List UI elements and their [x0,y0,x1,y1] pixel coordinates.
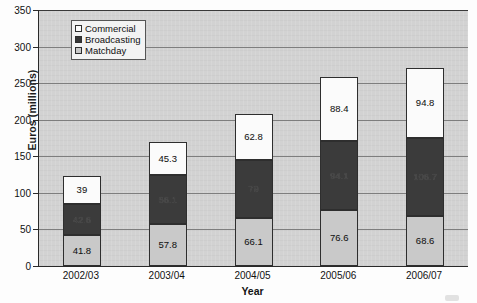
bar-group: 68.6106.794.8 [406,68,444,266]
bar-value-label: 76.6 [330,233,349,243]
bar-segment-broadcasting: 79 [235,160,273,218]
bar-segment-matchday: 57.8 [149,224,187,266]
x-axis-tick-label: 2002/03 [63,270,99,281]
bar-segment-matchday: 41.8 [63,235,101,266]
x-axis-title: Year [38,285,467,297]
legend-label: Commercial [85,23,136,34]
bar-value-label: 62.8 [244,132,263,142]
y-axis-tick-label: 200 [14,114,31,125]
bar-value-label: 68.6 [416,236,435,246]
bar-value-label: 45.3 [158,154,177,164]
x-axis-tick-label: 2003/04 [149,270,185,281]
bar-group: 76.694.188.4 [320,77,358,267]
bar-value-label: 42.6 [73,215,92,225]
bar-value-label: 39 [77,185,88,195]
y-axis-tick-label: 350 [14,5,31,16]
bar-segment-matchday: 68.6 [406,216,444,266]
stacked-bar-chart: Euros (millions) 350300250200150100500 4… [0,0,477,303]
bar-value-label: 41.8 [73,246,92,256]
y-axis-tick-label: 50 [20,224,31,235]
bar-group: 57.866.145.3 [149,142,187,266]
bar-value-label: 94.8 [416,98,435,108]
bar-value-label: 88.4 [330,104,349,114]
bar-segment-commercial: 94.8 [406,68,444,137]
y-axis-tick-label: 250 [14,78,31,89]
bar-segment-broadcasting: 66.1 [149,175,187,223]
legend-label: Broadcasting [85,34,140,45]
y-axis-tick-label: 300 [14,41,31,52]
bar-segment-commercial: 62.8 [235,114,273,160]
x-axis-tick-label: 2004/05 [234,270,270,281]
legend-swatch-icon [75,25,82,32]
bar-segment-commercial: 45.3 [149,142,187,175]
y-axis-tick-label: 100 [14,187,31,198]
bar-value-label: 66.1 [244,237,263,247]
legend-label: Matchday [85,45,126,56]
bar-segment-commercial: 88.4 [320,77,358,142]
legend-swatch-icon [75,47,82,54]
legend-item: Commercial [75,23,140,34]
bar-value-label: 106.7 [413,172,437,182]
bar-segment-matchday: 66.1 [235,218,273,266]
bar-value-label: 79 [248,184,259,194]
bar-segment-commercial: 39 [63,176,101,205]
bar-segment-matchday: 76.6 [320,210,358,266]
bar-group: 41.842.639 [63,176,101,266]
bar-segment-broadcasting: 94.1 [320,141,358,210]
y-axis-tick-label: 150 [14,151,31,162]
x-axis-tick-labels: 2002/032003/042004/052005/062006/07 [38,270,467,284]
y-axis-tick-label: 0 [25,261,31,272]
bar-segment-broadcasting: 106.7 [406,138,444,216]
bar-value-label: 57.8 [158,240,177,250]
y-axis-tick-labels: 350300250200150100500 [0,0,36,303]
plot-area: 41.842.63957.866.145.366.17962.876.694.1… [38,10,468,267]
x-axis-tick-label: 2006/07 [406,270,442,281]
bar-group: 66.17962.8 [235,114,273,266]
chart-legend: CommercialBroadcastingMatchday [71,20,146,60]
bar-value-label: 94.1 [330,171,349,181]
bar-segment-broadcasting: 42.6 [63,204,101,235]
legend-item: Broadcasting [75,34,140,45]
legend-item: Matchday [75,45,140,56]
bar-value-label: 66.1 [158,195,177,205]
legend-swatch-icon [75,36,82,43]
x-axis-tick-label: 2005/06 [320,270,356,281]
